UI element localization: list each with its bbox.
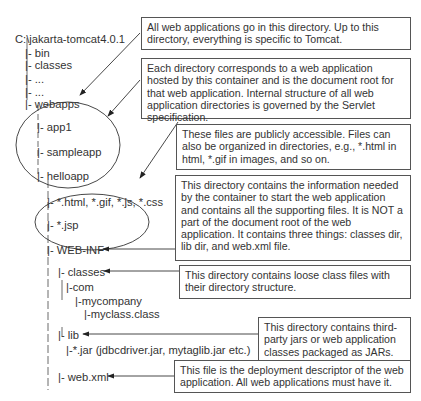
tree-item-static-files: |- *.html, *.gif, *.js, *.css	[47, 196, 163, 208]
tree-item-helloapp: |- helloapp	[37, 170, 89, 182]
tree-item-web-inf: |- WEB-INF	[47, 244, 104, 256]
callout-webapps: All web applications go in this director…	[141, 17, 411, 50]
tree-item-webapps: |- webapps	[25, 98, 80, 110]
tree-item-jar-files: |-*.jar (jdbcdriver.jar, mytaglib.jar et…	[66, 344, 250, 356]
tree-root: C:\jakarta-tomcat4.0.1	[15, 33, 125, 45]
tree-item-sampleapp: |- sampleapp	[37, 146, 101, 158]
callout-lib: This directory contains third-party jars…	[258, 317, 411, 363]
tree-item-web-inf-classes: |- classes	[58, 266, 105, 278]
tree-item-app1: |- app1	[37, 121, 72, 133]
tree-item-myclass: |-myclass.class	[84, 308, 160, 320]
tree-item-jsp-files: |- *.jsp	[47, 219, 79, 231]
tree-item-lib: |- lib	[58, 329, 79, 341]
tree-item-web-xml: |- web.xml	[58, 371, 109, 383]
callout-web-xml: This file is the deployment descriptor o…	[174, 360, 411, 393]
callout-web-inf: This directory contains the information …	[175, 175, 411, 261]
tree-item-mycompany: |-mycompany	[75, 295, 142, 307]
callout-classes: This directory contains loose class file…	[179, 265, 411, 299]
callout-public-files: These files are publicly accessible. Fil…	[176, 124, 411, 170]
tree-item-ellipsis: |- ...	[25, 73, 44, 85]
tree-item-bin: |- bin	[25, 47, 50, 59]
tree-item-ellipsis: |- ...	[25, 86, 44, 98]
tree-item-com: |-com	[66, 281, 94, 293]
callout-app-directory: Each directory corresponds to a web appl…	[141, 58, 411, 119]
tree-item-classes: |- classes	[25, 59, 72, 71]
